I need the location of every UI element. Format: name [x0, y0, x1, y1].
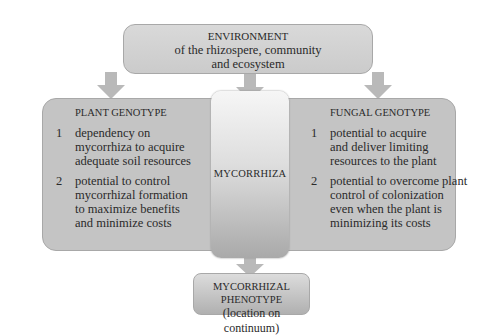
item-number: 1 — [42, 126, 75, 168]
item-number: 2 — [42, 174, 75, 230]
plant-genotype-panel: PLANT GENOTYPE 1 dependency on mycorrhiz… — [42, 106, 191, 236]
item-number: 2 — [300, 174, 330, 230]
item-text: dependency on mycorrhiza to acquire adeq… — [75, 126, 191, 168]
plant-genotype-title: PLANT GENOTYPE — [75, 106, 191, 120]
plant-genotype-item: 2 potential to control mycorrhizal forma… — [42, 174, 191, 230]
environment-title: ENVIRONMENT — [124, 30, 372, 43]
phenotype-title: MYCORRHIZAL PHENOTYPE — [194, 280, 309, 306]
phenotype-subtitle: (location on continuum) — [194, 306, 309, 336]
fungal-genotype-title: FUNGAL GENOTYPE — [330, 106, 467, 120]
fungal-genotype-panel: FUNGAL GENOTYPE 1 potential to acquire a… — [300, 106, 467, 236]
arrow-env-to-fungal — [363, 72, 393, 100]
item-text: potential to overcome plant control of c… — [330, 174, 467, 230]
item-number: 1 — [300, 126, 330, 168]
fungal-genotype-item: 1 potential to acquire and deliver limit… — [300, 126, 467, 168]
environment-subtitle-line2: and ecosystem — [124, 57, 372, 71]
plant-genotype-item: 1 dependency on mycorrhiza to acquire ad… — [42, 126, 191, 168]
arrow-env-to-plant — [96, 72, 126, 100]
environment-subtitle-line1: of the rhizospere, community — [124, 43, 372, 57]
mycorrhiza-label: MYCORRHIZA — [211, 168, 289, 179]
phenotype-box: MYCORRHIZAL PHENOTYPE (location on conti… — [193, 273, 310, 315]
fungal-genotype-item: 2 potential to overcome plant control of… — [300, 174, 467, 230]
environment-box: ENVIRONMENT of the rhizospere, community… — [123, 24, 373, 74]
mycorrhiza-box: MYCORRHIZA — [211, 91, 289, 258]
item-text: potential to control mycorrhizal formati… — [75, 174, 188, 230]
item-text: potential to acquire and deliver limitin… — [330, 126, 437, 168]
